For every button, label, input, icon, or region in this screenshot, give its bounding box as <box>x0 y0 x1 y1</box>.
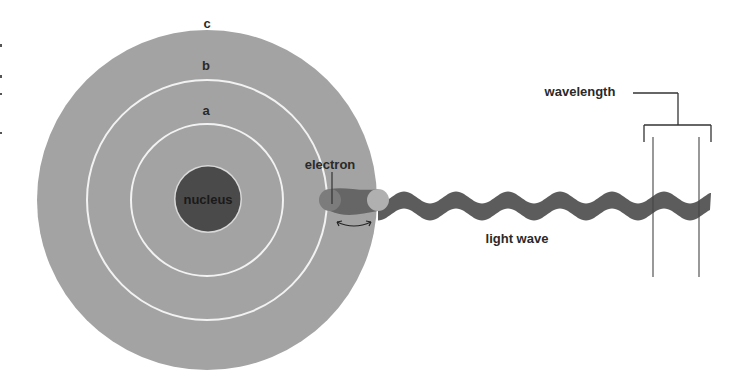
orbit-a-label: a <box>202 103 210 118</box>
wavelength-bracket <box>633 93 711 142</box>
light-wave <box>378 192 711 221</box>
left-edge-remnants <box>0 44 2 134</box>
bohr-atom-diagram: c b a nucleus electron light wave wavele… <box>0 0 749 381</box>
light-wave-label: light wave <box>486 231 549 246</box>
electron-outer <box>367 189 389 211</box>
electron-inner <box>319 189 341 211</box>
orbit-b-label: b <box>202 58 210 73</box>
electron-label: electron <box>305 157 356 172</box>
wavelength-label: wavelength <box>544 84 616 99</box>
nucleus-label: nucleus <box>183 192 232 207</box>
orbit-c-label: c <box>203 16 210 31</box>
